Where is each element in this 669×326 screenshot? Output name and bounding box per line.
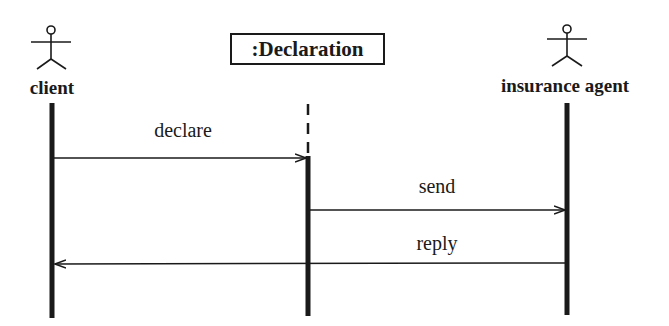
- sequence-diagram: client :Declaration insurance agent decl…: [0, 0, 669, 326]
- message-label-declare: declare: [154, 119, 212, 142]
- actor-label-client: client: [30, 77, 74, 99]
- actor-icon-agent: [547, 25, 587, 66]
- message-arrow-reply: [55, 263, 565, 264]
- actor-label-agent: insurance agent: [501, 75, 629, 97]
- message-label-send: send: [419, 175, 456, 198]
- object-box-declaration: :Declaration: [230, 33, 385, 65]
- actor-icon-client: [31, 26, 71, 69]
- message-label-reply: reply: [416, 232, 457, 255]
